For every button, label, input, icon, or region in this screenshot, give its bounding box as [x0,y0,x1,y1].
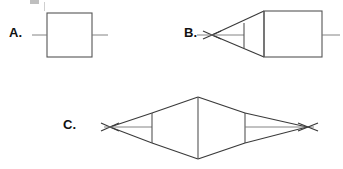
panel-b-rectangle-body [264,11,322,57]
panel-a-rectangle-body [47,13,92,57]
panel-c-left-upper-ray [110,113,152,127]
panel-c-body-upper-right-edge [198,97,245,113]
panel-c-body-lower-right-edge [198,143,245,159]
panel-c-right-lower-ray [245,127,307,143]
diagram-vector-layer [0,0,343,169]
panel-a-figure [32,13,108,57]
diagram-canvas: A. B. C. [0,0,343,169]
panel-c-right-upper-ray [245,113,307,127]
panel-b-figure [197,11,340,57]
panel-c-body-upper-left-edge [152,97,198,113]
panel-c-figure [101,97,318,159]
panel-c-body-lower-left-edge [152,143,198,159]
